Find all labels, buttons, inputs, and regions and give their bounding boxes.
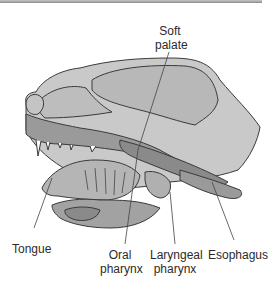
label-laryngeal-pharynx-line2: pharynx: [150, 262, 200, 276]
tongue: [42, 160, 140, 200]
label-tongue-text: Tongue: [12, 242, 51, 256]
label-soft-palate-line2: palate: [155, 38, 185, 52]
label-esophagus: Esophagus: [208, 248, 268, 262]
label-soft-palate: Soft palate: [155, 24, 185, 52]
label-soft-palate-line1: Soft: [155, 24, 185, 38]
label-tongue: Tongue: [12, 242, 51, 256]
label-esophagus-text: Esophagus: [208, 248, 268, 262]
leader-laryngeal-pharynx: [170, 192, 175, 244]
nose: [26, 94, 44, 114]
label-oral-pharynx: Oral pharynx: [100, 248, 140, 276]
label-oral-pharynx-line2: pharynx: [100, 262, 140, 276]
label-oral-pharynx-line1: Oral: [100, 248, 140, 262]
label-laryngeal-pharynx-line1: Laryngeal: [150, 248, 200, 262]
label-laryngeal-pharynx: Laryngeal pharynx: [150, 248, 200, 276]
